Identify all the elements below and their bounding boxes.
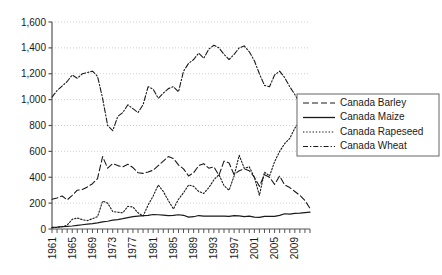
y-tick-label: 200 xyxy=(29,198,46,209)
legend[interactable]: Canada BarleyCanada MaizeCanada Rapeseed… xyxy=(297,94,439,156)
chart-container: 02004006008001,0001,2001,4001,600 196119… xyxy=(0,0,442,275)
x-tick-label: 1985 xyxy=(168,237,179,260)
x-tick-label: 2009 xyxy=(289,237,300,260)
x-axis xyxy=(52,229,310,233)
y-tick-label: 600 xyxy=(29,146,46,157)
x-tick-label: 2005 xyxy=(269,237,280,260)
legend-label-canada-barley[interactable]: Canada Barley xyxy=(340,97,406,108)
x-tick-label: 1973 xyxy=(107,237,118,260)
data-series-group xyxy=(52,45,310,227)
legend-label-canada-maize[interactable]: Canada Maize xyxy=(340,111,405,122)
y-tick-label: 1,600 xyxy=(21,17,46,28)
legend-label-canada-wheat[interactable]: Canada Wheat xyxy=(340,140,407,151)
x-tick-label: 1969 xyxy=(87,237,98,260)
grid-lines xyxy=(52,22,310,203)
y-tick-label: 1,400 xyxy=(21,42,46,53)
x-tick-label: 1993 xyxy=(208,237,219,260)
line-chart: 02004006008001,0001,2001,4001,600 196119… xyxy=(0,0,442,275)
series-line-canada-rapeseed xyxy=(52,100,310,228)
y-tick-label: 400 xyxy=(29,172,46,183)
y-tick-label: 1,000 xyxy=(21,94,46,105)
y-tick-label: 800 xyxy=(29,120,46,131)
y-axis xyxy=(49,22,53,229)
y-tick-label: 0 xyxy=(40,224,46,235)
x-tick-label: 1981 xyxy=(148,237,159,260)
x-tick-label: 1989 xyxy=(188,237,199,260)
x-tick-label: 1961 xyxy=(47,237,58,260)
series-line-canada-barley xyxy=(52,157,310,209)
x-tick-labels: 1961196519691973197719811985198919931997… xyxy=(47,237,301,260)
series-line-canada-wheat xyxy=(52,45,310,130)
y-tick-label: 1,200 xyxy=(21,68,46,79)
x-tick-label: 1977 xyxy=(127,237,138,260)
x-tick-label: 1997 xyxy=(229,237,240,260)
legend-label-canada-rapeseed[interactable]: Canada Rapeseed xyxy=(340,126,423,137)
y-tick-labels: 02004006008001,0001,2001,4001,600 xyxy=(21,17,46,235)
x-tick-label: 1965 xyxy=(67,237,78,260)
x-tick-label: 2001 xyxy=(249,237,260,260)
